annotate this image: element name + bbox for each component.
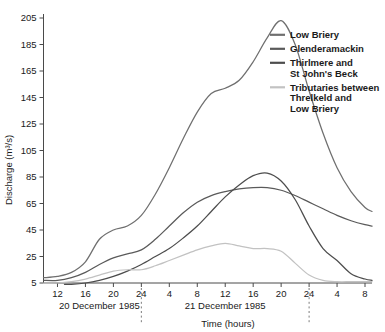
y-tick-label: 5 <box>31 277 36 288</box>
series-line-1 <box>44 187 373 280</box>
date-label: 21 December 1985 <box>185 300 266 311</box>
legend-label-1: Glenderamackin <box>290 43 364 54</box>
y-tick-label: 65 <box>26 198 37 209</box>
y-tick-label: 185 <box>21 39 37 50</box>
chart-legend: Low BrieryGlenderamackinThirlmere andSt … <box>270 29 379 114</box>
y-tick-label: 45 <box>26 224 37 235</box>
legend-label-3: Low Briery <box>290 103 340 114</box>
y-tick-label: 165 <box>21 65 37 76</box>
y-axis-title: Discharge (m³/s) <box>3 135 14 205</box>
chart-svg: 525456585105125145165185205 121620244812… <box>0 0 385 332</box>
y-tick-label: 205 <box>21 12 37 23</box>
y-tick-label: 25 <box>26 251 37 262</box>
series-line-2 <box>64 173 372 285</box>
x-tick-label: 20 <box>276 288 287 299</box>
x-axis-tick-group: 12162024481216202448 <box>52 283 367 299</box>
discharge-hydrograph-chart: 525456585105125145165185205 121620244812… <box>0 0 385 332</box>
y-tick-label: 145 <box>21 92 37 103</box>
x-tick-label: 16 <box>80 288 91 299</box>
legend-label-2: St John's Beck <box>290 68 358 79</box>
y-tick-label: 85 <box>26 171 37 182</box>
x-tick-label: 4 <box>167 288 172 299</box>
y-tick-label: 125 <box>21 118 37 129</box>
x-tick-label: 12 <box>52 288 63 299</box>
x-tick-label: 12 <box>220 288 231 299</box>
date-label-group: 20 December 198521 December 1985 <box>59 300 266 311</box>
x-tick-label: 4 <box>334 288 339 299</box>
x-axis-title: Time (hours) <box>201 318 255 329</box>
legend-label-0: Low Briery <box>290 29 340 40</box>
y-tick-label: 105 <box>21 145 37 156</box>
legend-label-3: Tributaries between <box>290 82 379 93</box>
date-label: 20 December 1985 <box>59 300 140 311</box>
legend-label-3: Threlkeld and <box>290 92 352 103</box>
x-tick-label: 20 <box>108 288 119 299</box>
x-tick-label: 8 <box>195 288 200 299</box>
y-axis-tick-group: 525456585105125145165185205 <box>21 12 44 288</box>
legend-label-2: Thirlmere and <box>290 57 353 68</box>
x-tick-label: 8 <box>362 288 367 299</box>
x-tick-label: 16 <box>248 288 259 299</box>
